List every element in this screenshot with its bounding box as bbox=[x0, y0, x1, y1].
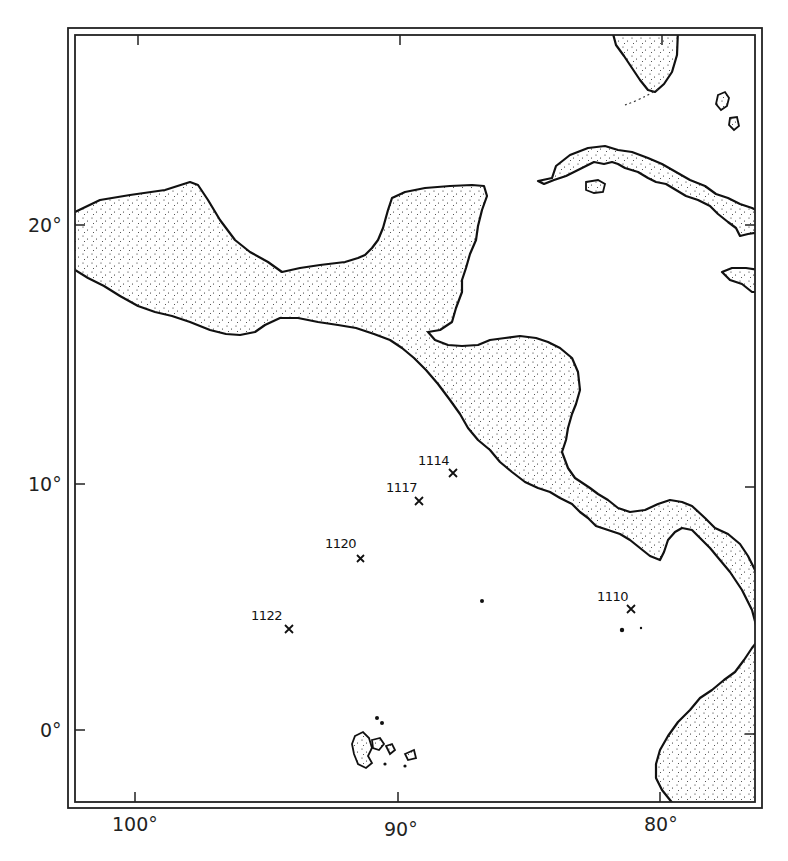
map-frame-inner bbox=[75, 35, 755, 802]
bahamas-island bbox=[716, 92, 729, 110]
lat-label-10: 10° bbox=[28, 473, 62, 495]
site-marker-icon bbox=[415, 497, 423, 505]
latitude-labels: 20° 10° 0° bbox=[28, 214, 62, 741]
longitude-labels: 100° 90° 80° bbox=[112, 813, 678, 840]
lon-label-80: 80° bbox=[644, 813, 678, 835]
bahamas-island bbox=[729, 117, 739, 130]
lon-label-100: 100° bbox=[112, 813, 158, 835]
florida-landmass bbox=[612, 30, 678, 92]
site-1114[interactable]: 1114 bbox=[418, 453, 457, 477]
site-label: 1110 bbox=[597, 589, 628, 604]
site-1117[interactable]: 1117 bbox=[386, 480, 423, 505]
lat-label-0: 0° bbox=[40, 719, 62, 741]
map-canvas: 20° 10° 0° 100° 90° 80° 1114 1117 1120 1… bbox=[0, 0, 788, 861]
cuba-landmass bbox=[538, 146, 760, 236]
south-america-landmass bbox=[656, 638, 760, 812]
site-1110[interactable]: 1110 bbox=[597, 589, 635, 613]
lat-label-20: 20° bbox=[28, 214, 62, 236]
site-marker-icon bbox=[285, 625, 293, 633]
landmasses bbox=[60, 30, 760, 812]
site-1122[interactable]: 1122 bbox=[251, 608, 293, 633]
graticule-ticks bbox=[75, 35, 755, 802]
site-marker-icon bbox=[357, 555, 364, 562]
site-label: 1117 bbox=[386, 480, 417, 495]
site-1120[interactable]: 1120 bbox=[325, 536, 364, 562]
site-label: 1120 bbox=[325, 536, 356, 551]
central-america-landmass bbox=[60, 182, 760, 640]
map-frame-outer bbox=[68, 28, 762, 808]
lon-label-90: 90° bbox=[384, 818, 418, 840]
galapagos-islands bbox=[352, 716, 416, 768]
site-label: 1114 bbox=[418, 453, 449, 468]
isle-of-youth bbox=[586, 180, 605, 193]
site-marker-icon bbox=[627, 605, 635, 613]
site-label: 1122 bbox=[251, 608, 282, 623]
site-marker-icon bbox=[449, 469, 457, 477]
